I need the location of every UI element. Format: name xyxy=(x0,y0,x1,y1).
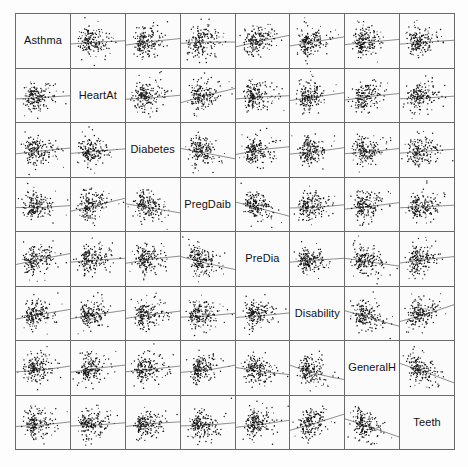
splom-panel-diabetes-vs-pregdaib xyxy=(181,123,235,177)
splom-panel-heartat-vs-pregdaib xyxy=(181,69,235,123)
splom-panel-heartat-vs-asthma xyxy=(16,69,70,123)
splom-panel-pregdaib-vs-disability xyxy=(290,178,344,232)
splom-panel-pregdaib-vs-teeth xyxy=(400,178,454,232)
splom-panel-pregdaib-vs-heartat xyxy=(71,178,125,232)
splom-panel-pregdaib-vs-asthma xyxy=(16,178,70,232)
variable-label: Asthma xyxy=(24,35,62,46)
splom-panel-asthma-vs-teeth xyxy=(400,14,454,68)
splom-panel-generalh-vs-asthma xyxy=(16,341,70,395)
splom-panel-generalh-vs-teeth xyxy=(400,341,454,395)
splom-panel-asthma-vs-generalh xyxy=(345,14,399,68)
splom-panel-pregdaib-vs-predia xyxy=(236,178,290,232)
splom-panel-pregdaib-vs-diabetes xyxy=(126,178,180,232)
splom-panel-disability-vs-diabetes xyxy=(126,287,180,341)
splom-panel-heartat-vs-disability xyxy=(290,69,344,123)
splom-panel-predia-vs-teeth xyxy=(400,232,454,286)
splom-panel-pregdaib-vs-generalh xyxy=(345,178,399,232)
splom-diagonal-diabetes: Diabetes xyxy=(126,123,180,177)
splom-diagonal-pregdaib: PregDaib xyxy=(181,178,235,232)
splom-panel-generalh-vs-predia xyxy=(236,341,290,395)
splom-panel-disability-vs-pregdaib xyxy=(181,287,235,341)
splom-panel-generalh-vs-diabetes xyxy=(126,341,180,395)
splom-panel-asthma-vs-diabetes xyxy=(126,14,180,68)
splom-panel-asthma-vs-predia xyxy=(236,14,290,68)
splom-panel-predia-vs-generalh xyxy=(345,232,399,286)
splom-grid: AsthmaHeartAtDiabetesPregDaibPreDiaDisab… xyxy=(15,13,455,450)
variable-label: PregDaib xyxy=(184,199,231,210)
splom-panel-teeth-vs-asthma xyxy=(16,396,70,450)
splom-panel-diabetes-vs-predia xyxy=(236,123,290,177)
variable-label: Disability xyxy=(295,308,340,319)
splom-panel-diabetes-vs-teeth xyxy=(400,123,454,177)
variable-label: Teeth xyxy=(413,417,440,428)
splom-panel-teeth-vs-diabetes xyxy=(126,396,180,450)
splom-panel-asthma-vs-heartat xyxy=(71,14,125,68)
splom-panel-teeth-vs-generalh xyxy=(345,396,399,450)
variable-label: Diabetes xyxy=(131,144,175,155)
variable-label: HeartAt xyxy=(79,90,117,101)
splom-panel-teeth-vs-predia xyxy=(236,396,290,450)
splom-panel-diabetes-vs-heartat xyxy=(71,123,125,177)
splom-panel-heartat-vs-diabetes xyxy=(126,69,180,123)
splom-panel-disability-vs-asthma xyxy=(16,287,70,341)
splom-panel-disability-vs-teeth xyxy=(400,287,454,341)
splom-panel-disability-vs-predia xyxy=(236,287,290,341)
splom-panel-diabetes-vs-disability xyxy=(290,123,344,177)
scatterplot-matrix: AsthmaHeartAtDiabetesPregDaibPreDiaDisab… xyxy=(15,13,455,450)
splom-panel-asthma-vs-disability xyxy=(290,14,344,68)
splom-panel-disability-vs-generalh xyxy=(345,287,399,341)
splom-panel-generalh-vs-pregdaib xyxy=(181,341,235,395)
splom-panel-generalh-vs-disability xyxy=(290,341,344,395)
splom-panel-teeth-vs-disability xyxy=(290,396,344,450)
splom-panel-predia-vs-disability xyxy=(290,232,344,286)
splom-panel-heartat-vs-predia xyxy=(236,69,290,123)
splom-panel-disability-vs-heartat xyxy=(71,287,125,341)
splom-panel-heartat-vs-teeth xyxy=(400,69,454,123)
variable-label: GeneralH xyxy=(348,362,396,373)
splom-panel-predia-vs-diabetes xyxy=(126,232,180,286)
splom-panel-teeth-vs-heartat xyxy=(71,396,125,450)
splom-panel-asthma-vs-pregdaib xyxy=(181,14,235,68)
variable-label: PreDia xyxy=(245,253,279,264)
splom-panel-predia-vs-pregdaib xyxy=(181,232,235,286)
splom-panel-heartat-vs-generalh xyxy=(345,69,399,123)
splom-diagonal-heartat: HeartAt xyxy=(71,69,125,123)
splom-panel-teeth-vs-pregdaib xyxy=(181,396,235,450)
splom-panel-generalh-vs-heartat xyxy=(71,341,125,395)
splom-diagonal-asthma: Asthma xyxy=(16,14,70,68)
splom-diagonal-generalh: GeneralH xyxy=(345,341,399,395)
splom-panel-diabetes-vs-asthma xyxy=(16,123,70,177)
splom-panel-diabetes-vs-generalh xyxy=(345,123,399,177)
splom-diagonal-disability: Disability xyxy=(290,287,344,341)
splom-diagonal-predia: PreDia xyxy=(236,232,290,286)
splom-panel-predia-vs-asthma xyxy=(16,232,70,286)
splom-panel-predia-vs-heartat xyxy=(71,232,125,286)
splom-diagonal-teeth: Teeth xyxy=(400,396,454,450)
